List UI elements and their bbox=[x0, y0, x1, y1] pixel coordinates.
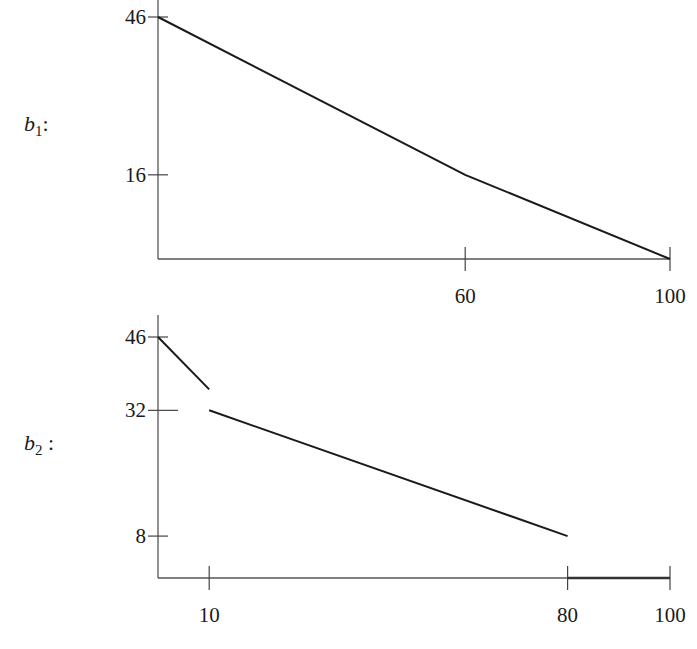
data-line-segment bbox=[158, 337, 209, 389]
x-tick-label: 10 bbox=[199, 603, 220, 627]
y-tick-label: 46 bbox=[125, 325, 146, 349]
chart-b2: 463281080100b2 : bbox=[24, 315, 686, 627]
data-line-segment bbox=[158, 17, 670, 259]
chart-b1: 461660100b1: bbox=[24, 0, 686, 308]
x-tick-label: 80 bbox=[557, 603, 578, 627]
x-tick-label: 100 bbox=[654, 603, 686, 627]
series-label: b2 : bbox=[24, 430, 54, 458]
y-tick-label: 8 bbox=[136, 524, 147, 548]
x-tick-label: 100 bbox=[654, 284, 686, 308]
piecewise-line-charts: 461660100b1: 463281080100b2 : bbox=[0, 0, 697, 649]
y-tick-label: 46 bbox=[125, 5, 146, 29]
y-tick-label: 16 bbox=[125, 163, 146, 187]
y-tick-label: 32 bbox=[125, 398, 146, 422]
series-label: b1: bbox=[24, 111, 49, 139]
data-line-segment bbox=[209, 410, 567, 536]
x-tick-label: 60 bbox=[455, 284, 476, 308]
